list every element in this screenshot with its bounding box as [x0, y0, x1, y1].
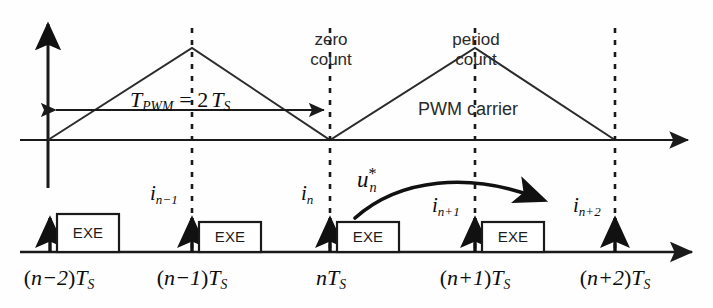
tick-expression: n−2 [31, 265, 68, 290]
tick-ts-symbol: T [491, 265, 503, 290]
time-tick-label-n-plus-2: (n+2)TS [556, 266, 674, 292]
tick-expression: n [316, 265, 327, 290]
sampling-instant-dashed-lines [192, 28, 615, 248]
pwm-carrier-annotation: PWM carrier [418, 100, 518, 119]
current-sample-subscript: n+1 [438, 204, 460, 219]
exe-box-label-4: EXE [482, 228, 544, 245]
tick-ts-symbol: T [208, 265, 220, 290]
tick-ts-subscript: S [339, 277, 346, 292]
period-count-annotation: period count [430, 30, 522, 70]
tick-ts-symbol: T [75, 265, 87, 290]
time-tick-label-n: nTS [285, 266, 377, 292]
exe-box-label-3: EXE [337, 228, 399, 245]
current-sample-subscript: n [307, 192, 314, 207]
pwm-period-ts-symbol: T [211, 87, 223, 112]
period-count-line-1: period [430, 30, 522, 50]
time-tick-label-n-minus-2: (n−2)TS [0, 266, 118, 292]
current-sample-label-n: in [301, 182, 313, 207]
pwm-timing-figure: TPWM= 2TS zero count period count PWM ca… [0, 0, 713, 308]
zero-count-line-1: zero [292, 30, 370, 50]
pwm-period-ts-subscript: S [223, 99, 230, 114]
tick-open-paren: ( [24, 265, 31, 290]
tick-expression: n+2 [587, 265, 624, 290]
pwm-period-symbol: T [130, 87, 142, 112]
pwm-period-equals: = 2 [179, 87, 208, 112]
exe-box-label-2: EXE [199, 228, 261, 245]
current-sample-label-n-plus-1: in+1 [432, 194, 460, 219]
tick-expression: n+1 [447, 265, 484, 290]
voltage-reference-symbol: u [357, 167, 369, 192]
time-tick-label-n-minus-1: (n−1)TS [133, 266, 251, 292]
zero-count-line-2: count [292, 50, 370, 70]
tick-ts-subscript: S [503, 277, 510, 292]
tick-ts-subscript: S [87, 277, 94, 292]
pwm-period-subscript: PWM [142, 99, 173, 114]
tick-ts-symbol: T [327, 265, 339, 290]
current-sample-label-n-plus-2: in+2 [573, 194, 601, 219]
pwm-period-label: TPWM= 2TS [130, 88, 230, 114]
period-count-line-2: count [430, 50, 522, 70]
current-sample-subscript: n−1 [156, 192, 178, 207]
exe-box-label-1: EXE [57, 224, 119, 241]
tick-open-paren: ( [580, 265, 587, 290]
current-sample-subscript: n+2 [579, 204, 601, 219]
tick-open-paren: ( [157, 265, 164, 290]
zero-count-annotation: zero count [292, 30, 370, 70]
tick-expression: n−1 [164, 265, 201, 290]
tick-open-paren: ( [440, 265, 447, 290]
exe-boxes [57, 214, 544, 252]
time-tick-label-n-plus-1: (n+1)TS [416, 266, 534, 292]
tick-ts-subscript: S [643, 277, 650, 292]
current-sample-label-n-minus-1: in−1 [150, 182, 178, 207]
voltage-reference-label: u*n [357, 166, 377, 195]
tick-ts-symbol: T [631, 265, 643, 290]
tick-ts-subscript: S [220, 277, 227, 292]
voltage-reference-subscript: n [370, 179, 377, 195]
